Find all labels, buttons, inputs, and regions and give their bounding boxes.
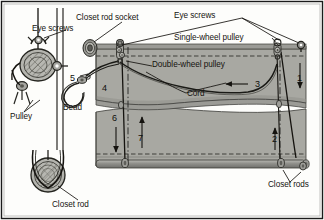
rod-end-hardware-left bbox=[122, 158, 129, 167]
callout-number-2: 2 bbox=[272, 134, 277, 144]
rod-end-far-right bbox=[300, 162, 307, 170]
label-closet-rod-socket: Closet rod socket bbox=[76, 13, 138, 22]
label-eye-screws-right: Eye screws bbox=[174, 11, 215, 20]
detail-double-wheel-pulley bbox=[20, 49, 56, 81]
label-pulley: Pulley bbox=[10, 112, 32, 121]
label-cord: Cord bbox=[187, 89, 205, 98]
label-double-wheel-pulley: Double-wheel pulley bbox=[152, 60, 225, 69]
callout-number-1: 1 bbox=[297, 73, 302, 83]
callout-number-7: 7 bbox=[138, 133, 143, 143]
diagram-canvas: Closet rod socket Eye screws Eye screws … bbox=[0, 0, 324, 220]
mid-rod-end-right bbox=[276, 100, 281, 107]
eye-screw-left-upper bbox=[118, 41, 122, 45]
callout-number-6: 6 bbox=[112, 113, 117, 123]
label-closet-rods: Closet rods bbox=[268, 180, 309, 189]
callout-number-4: 4 bbox=[102, 83, 107, 93]
rod-end-hardware-right bbox=[278, 158, 285, 167]
label-eye-screws-left: Eye screws bbox=[32, 24, 73, 33]
label-bead: Bead bbox=[63, 103, 82, 112]
closet-rod-socket bbox=[83, 40, 97, 57]
label-single-wheel-pulley: Single-wheel pulley bbox=[174, 33, 244, 42]
callout-number-3: 3 bbox=[255, 79, 260, 89]
label-closet-rod: Closet rod bbox=[52, 200, 89, 209]
callout-number-5: 5 bbox=[70, 73, 75, 83]
mid-rod-end-left bbox=[118, 101, 123, 108]
